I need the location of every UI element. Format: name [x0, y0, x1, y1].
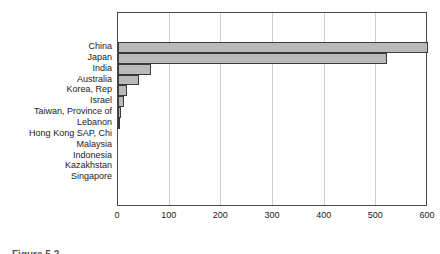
x-tick-label: 400: [304, 210, 344, 220]
plot-area: [117, 12, 427, 206]
bar: [118, 42, 428, 53]
x-tick-label: 100: [149, 210, 189, 220]
x-tick-label: 200: [200, 210, 240, 220]
category-label: India: [0, 63, 112, 74]
bar: [118, 107, 121, 118]
category-label: Malaysia: [0, 139, 112, 150]
category-label: Lebanon: [0, 117, 112, 128]
category-label: Indonesia: [0, 150, 112, 161]
category-label: Australia: [0, 74, 112, 85]
x-tick-label: 500: [355, 210, 395, 220]
bar: [118, 85, 127, 96]
category-label: China: [0, 41, 112, 52]
x-tick-label: 300: [252, 210, 292, 220]
category-label: Korea, Rep: [0, 84, 112, 95]
x-tick-label: 600: [407, 210, 440, 220]
x-tick-label: 0: [97, 210, 137, 220]
category-label: Israel: [0, 95, 112, 106]
category-label: Taiwan, Province of: [0, 106, 112, 117]
bar-chart-figure: ChinaJapanIndiaAustraliaKorea, RepIsrael…: [0, 0, 440, 254]
category-label: Kazakhstan: [0, 160, 112, 171]
bar: [118, 64, 151, 75]
bar: [118, 75, 139, 86]
bar: [118, 118, 120, 129]
category-label: Singapore: [0, 171, 112, 182]
category-label: Hong Kong SAP, Chi: [0, 128, 112, 139]
bar: [118, 53, 387, 64]
category-label: Japan: [0, 52, 112, 63]
bar: [118, 96, 124, 107]
figure-caption: Figure 5.2: [12, 249, 59, 254]
